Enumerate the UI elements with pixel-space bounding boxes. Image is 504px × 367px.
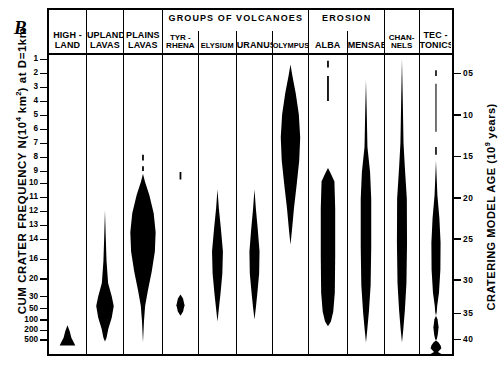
column-header-bottom: TONICS bbox=[420, 41, 452, 53]
violin-shape bbox=[124, 55, 162, 354]
violin-segment-0 bbox=[179, 172, 181, 180]
y-axis-left-ticklabel: 13 bbox=[29, 221, 38, 229]
y-axis-left-ticklabel: 100 bbox=[24, 316, 38, 324]
y-axis-left-tickmark bbox=[40, 296, 47, 297]
y-axis-left-tickmark bbox=[40, 339, 47, 340]
column-header-bottom: URANUS bbox=[237, 41, 272, 53]
y-axis-right-ticklabel: 35 bbox=[463, 309, 473, 317]
violin-column-tectonics bbox=[420, 55, 452, 354]
violin-column-upland-lavas bbox=[87, 55, 124, 354]
y-axis-left-tickmark bbox=[40, 101, 47, 102]
chart-frame: HIGH -LANDUPLANDLAVASPLAINSLAVASTYR -RHE… bbox=[47, 8, 454, 356]
violin-segment-0 bbox=[360, 80, 371, 343]
y-axis-left-tickmark bbox=[40, 87, 47, 88]
y-axis-left-ticklabel: 200 bbox=[24, 326, 38, 334]
y-axis-left-ticklabel: 16 bbox=[29, 255, 38, 263]
violin-shape bbox=[163, 55, 198, 354]
y-axis-left-title-tail: ) at D=1km bbox=[16, 27, 28, 91]
column-header-highland: HIGH -LAND bbox=[49, 10, 87, 53]
y-axis-left-ticklabel: 1 bbox=[33, 55, 38, 63]
violin-shape bbox=[49, 55, 86, 354]
y-axis-right-tickmark bbox=[454, 114, 461, 115]
y-axis-left-title-sup2: 2 bbox=[14, 91, 23, 95]
y-axis-left-ticklabel: 11 bbox=[29, 193, 38, 201]
column-header-bottom: OLYMPUS bbox=[273, 42, 308, 53]
y-axis-left-tickmark bbox=[40, 308, 47, 309]
violin-shape bbox=[87, 55, 123, 354]
y-axis-left-tickmark bbox=[40, 197, 47, 198]
violin-segment-0 bbox=[212, 189, 223, 321]
y-axis-left-tickmark bbox=[40, 171, 47, 172]
y-axis-right-ticklabel: 10 bbox=[463, 111, 473, 119]
violin-column-tyrrhena bbox=[163, 55, 199, 354]
y-axis-left-title-sup: 4 bbox=[14, 117, 23, 121]
violin-segment-0 bbox=[280, 65, 299, 245]
violin-segment-5 bbox=[430, 341, 441, 354]
violin-shape bbox=[385, 55, 419, 354]
y-axis-right-tickmark bbox=[454, 313, 461, 314]
violin-column-alba bbox=[309, 55, 348, 354]
y-axis-left-tickmark bbox=[40, 143, 47, 144]
violin-segment-3 bbox=[431, 160, 440, 315]
y-axis-right-title-post: years) bbox=[485, 103, 497, 142]
y-axis-left-tickmark bbox=[40, 239, 47, 240]
column-header-bottom: LAVAS bbox=[87, 41, 123, 53]
y-axis-right-title: CRATERING MODEL AGE (109 years) bbox=[483, 62, 497, 352]
violin-column-highland bbox=[49, 55, 87, 354]
column-header-bottom: ALBA bbox=[309, 41, 347, 53]
column-header-bottom: LAND bbox=[49, 41, 86, 53]
violin-segment-1 bbox=[327, 76, 329, 101]
violin-segment-1 bbox=[176, 295, 184, 316]
column-header-label: TYR -RHENA bbox=[163, 34, 198, 53]
violin-shape bbox=[199, 55, 236, 354]
violin-segment-0 bbox=[397, 59, 407, 343]
y-axis-left-tickmark bbox=[40, 225, 47, 226]
violin-segment-0 bbox=[60, 325, 76, 345]
violin-segment-0 bbox=[96, 210, 114, 341]
column-header-alba: ALBA bbox=[309, 10, 348, 53]
column-header-bottom: MENSAE bbox=[348, 41, 384, 53]
y-axis-left-tickmark bbox=[40, 319, 47, 320]
y-axis-left-title-post: km bbox=[16, 96, 28, 117]
y-axis-right-ticklabel: 20 bbox=[463, 194, 473, 202]
y-axis-left-tickmark bbox=[40, 129, 47, 130]
violin-shape bbox=[309, 55, 347, 354]
violin-segment-0 bbox=[327, 61, 329, 68]
y-axis-right-ticklabel: 25 bbox=[463, 235, 473, 243]
y-axis-right-title-sup: 9 bbox=[483, 142, 492, 146]
violin-column-uranus bbox=[237, 55, 273, 354]
y-axis-right-ticklabel: 30 bbox=[463, 276, 473, 284]
y-axis-left-tickmark bbox=[40, 157, 47, 158]
violin-segment-2 bbox=[320, 168, 334, 326]
y-axis-left-ticklabel: 20 bbox=[29, 275, 38, 283]
y-axis-left-title: CUM CRATER FREQUENCY N(104 km2) at D=1km bbox=[14, 11, 28, 331]
violin-segment-1 bbox=[142, 166, 144, 171]
violin-segment-0 bbox=[249, 189, 259, 319]
column-header-line-1: RHENA bbox=[163, 42, 198, 50]
violin-shape bbox=[420, 55, 452, 354]
y-axis-left-ticklabel: 6 bbox=[33, 125, 38, 133]
violin-segment-4 bbox=[433, 316, 438, 341]
y-axis-left-ticklabel: 5 bbox=[33, 111, 38, 119]
violin-column-channels bbox=[385, 55, 420, 354]
violin-segment-0 bbox=[435, 70, 437, 76]
column-header-upland-lavas: UPLANDLAVAS bbox=[87, 10, 124, 53]
column-header-mensae: MENSAE bbox=[348, 10, 385, 53]
violin-segment-0 bbox=[142, 155, 144, 161]
column-header-elysium: ELYSIUM bbox=[199, 10, 237, 53]
y-axis-left-ticklabel: 12 bbox=[29, 207, 38, 215]
column-header-bottom: ELYSIUM bbox=[199, 42, 236, 53]
y-axis-right-tickmark bbox=[454, 197, 461, 198]
column-header-tectonics: TEC -TONICS bbox=[420, 10, 452, 53]
violin-segment-2 bbox=[435, 147, 437, 155]
violin-column-mensae bbox=[348, 55, 385, 354]
y-axis-right-tickmark bbox=[454, 238, 461, 239]
y-axis-left-ticklabel: 2 bbox=[33, 69, 38, 77]
y-axis-left-ticklabel: 10 bbox=[29, 179, 38, 187]
y-axis-right-ticklabel: 40 bbox=[463, 335, 473, 343]
y-axis-right-tickmark bbox=[454, 73, 461, 74]
y-axis-left-ticklabel: 7 bbox=[33, 139, 38, 147]
violin-shape bbox=[273, 55, 308, 354]
column-header-olympus: OLYMPUS bbox=[273, 10, 309, 53]
y-axis-right-ticklabel: 05 bbox=[463, 69, 473, 77]
